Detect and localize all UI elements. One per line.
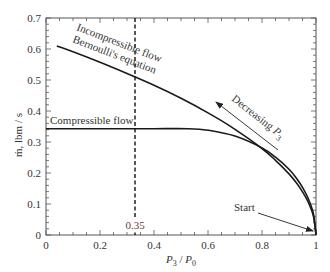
compressible-label: Compressible flow	[50, 114, 133, 126]
x-tick-label: 0	[43, 239, 49, 251]
chart: 00.20.40.60.8100.10.20.30.40.50.60.7 0.3…	[0, 0, 330, 272]
start-label: Start	[234, 201, 255, 213]
start-arrow	[258, 213, 313, 231]
x-tick-label: 0.2	[93, 239, 107, 251]
decreasing-label: Decreasing P3	[228, 92, 287, 143]
y-tick-label: 0.7	[27, 12, 41, 24]
y-axis-label: ṁ, lbm / s	[12, 113, 24, 157]
y-tick-label: 0.1	[27, 198, 41, 210]
y-tick-label: 0.6	[27, 43, 41, 55]
y-tick-label: 0.2	[27, 167, 41, 179]
x-tick-label: 0.8	[255, 239, 269, 251]
x-axis-label: P3 / P0	[165, 253, 196, 268]
y-tick-label: 0.4	[27, 105, 41, 117]
y-tick-label: 0.3	[27, 136, 41, 148]
dashed-line-label: 0.35	[125, 219, 145, 231]
x-tick-label: 0.6	[201, 239, 215, 251]
x-tick-label: 1	[313, 239, 319, 251]
x-tick-label: 0.4	[147, 239, 161, 251]
y-tick-label: 0	[36, 229, 42, 241]
y-tick-label: 0.5	[27, 74, 41, 86]
